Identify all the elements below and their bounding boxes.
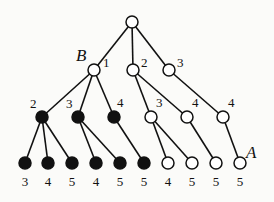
tree-edge [132, 22, 169, 70]
empty-node-l9 [210, 157, 222, 169]
node-tag-b: B [76, 46, 87, 65]
node-label: 2 [30, 96, 37, 111]
node-label: 4 [45, 174, 52, 189]
node-label: 5 [117, 174, 124, 189]
tree-diagram: 1232343443454554555 B A [0, 0, 274, 202]
node-label: 5 [189, 174, 196, 189]
node-label: 4 [165, 174, 172, 189]
tree-edge [132, 22, 133, 70]
filled-node-n13 [72, 111, 84, 123]
node-label: 3 [22, 174, 29, 189]
filled-node-l1 [19, 157, 31, 169]
node-label: 4 [117, 95, 124, 110]
filled-node-l4 [90, 157, 102, 169]
node-label: 4 [192, 95, 199, 110]
node-label: 4 [93, 174, 100, 189]
tree-edge [223, 117, 240, 163]
tree-edge [94, 70, 114, 117]
tree-edges [25, 22, 240, 163]
node-label: 1 [103, 55, 110, 70]
tree-edge [78, 117, 96, 163]
tree-edge [78, 117, 120, 163]
node-label: 4 [228, 95, 235, 110]
filled-node-n12 [36, 111, 48, 123]
node-label: 5 [141, 174, 148, 189]
filled-node-n14 [108, 111, 120, 123]
empty-node-root [126, 16, 138, 28]
node-tag-a: A [245, 143, 257, 162]
tree-edge [94, 22, 132, 70]
empty-node-n23 [145, 111, 157, 123]
empty-node-l8 [186, 157, 198, 169]
tree-edge [187, 117, 216, 163]
empty-node-n2 [127, 64, 139, 76]
node-label: 3 [177, 55, 184, 70]
node-label: 5 [237, 174, 244, 189]
empty-node-n24 [181, 111, 193, 123]
node-label: 5 [213, 174, 220, 189]
tree-edge [151, 117, 192, 163]
filled-node-l3 [66, 157, 78, 169]
empty-node-l7 [162, 157, 174, 169]
tree-edge [114, 117, 144, 163]
empty-node-l10 [234, 157, 246, 169]
filled-node-l6 [138, 157, 150, 169]
node-label: 3 [66, 96, 73, 111]
node-label: 2 [141, 55, 148, 70]
empty-node-n34 [217, 111, 229, 123]
filled-node-l5 [114, 157, 126, 169]
tree-edge [25, 117, 42, 163]
filled-node-l2 [42, 157, 54, 169]
empty-node-n1 [88, 64, 100, 76]
tree-edge [151, 117, 168, 163]
node-label: 3 [156, 95, 163, 110]
empty-node-n3 [163, 64, 175, 76]
node-label: 5 [69, 174, 76, 189]
